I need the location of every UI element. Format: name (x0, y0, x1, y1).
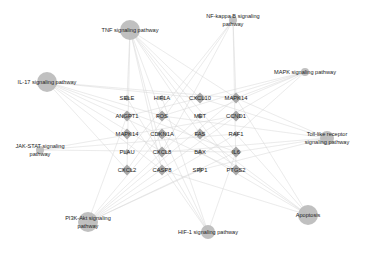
edge-mapk-fos (162, 72, 305, 116)
pathway-label-nfkb: pathway (223, 21, 244, 27)
edge-tnf-cxcl10 (130, 30, 200, 98)
gene-label-mapk14: MAPK14 (225, 95, 249, 101)
edges-layer (40, 20, 327, 232)
nodes-layer (36, 16, 334, 239)
edge-tnf-fos (130, 30, 162, 116)
labels-layer: TNF signaling pathwayNF-kappa B signalin… (15, 13, 349, 235)
pathway-label-apoptosis: Apoptosis (296, 212, 321, 218)
gene-label-ccnd1: CCND1 (226, 113, 246, 119)
edge-hif1-il6 (208, 152, 236, 232)
edge-pi3k-cdkn1a (88, 134, 162, 222)
pathway-label-jakstat: pathway (30, 151, 51, 157)
gene-label-cdkn1a: CDKN1A (150, 131, 174, 137)
edge-apoptosis-bax (200, 152, 308, 215)
gene-label-mapk14: MAPK14 (116, 131, 140, 137)
gene-label-casp8: CASP8 (152, 167, 171, 173)
gene-label-il6: IL6 (232, 149, 240, 155)
edge-apoptosis-fas (200, 134, 308, 215)
edge-tnf-mapk14 (130, 30, 236, 98)
gene-label-sele: SELE (120, 95, 135, 101)
pathway-label-mapk: MAPK signaling pathway (274, 69, 336, 75)
edge-il17-cxcl2 (47, 82, 127, 170)
pathway-label-il17: IL-17 signaling pathway (18, 79, 77, 85)
gene-label-raf1: RAF1 (229, 131, 244, 137)
gene-label-angpt1: ANGPT1 (115, 113, 138, 119)
gene-label-met: MET (194, 113, 207, 119)
pathway-label-tnf: TNF signaling pathway (102, 27, 159, 33)
gene-label-cxcl8: CXCL8 (153, 149, 172, 155)
gene-label-fas: FAS (195, 131, 206, 137)
pathway-label-nfkb: NF-kappa B signaling (206, 13, 259, 19)
pathway-gene-network: TNF signaling pathwayNF-kappa B signalin… (0, 0, 365, 254)
gene-label-ptgs2: PTGS2 (226, 167, 245, 173)
gene-label-hif1a: HIF1A (154, 95, 171, 101)
pathway-label-pi3k: pathway (78, 223, 99, 229)
pathway-label-jakstat: JAK-STAT signaling (15, 143, 64, 149)
gene-label-cxcl10: CXCL10 (189, 95, 211, 101)
pathway-label-toll: signaling pathway (305, 139, 350, 145)
gene-label-cxcl2: CXCL2 (118, 167, 137, 173)
edge-toll-cxcl8 (162, 138, 327, 152)
edge-apoptosis-raf1 (236, 134, 308, 215)
gene-label-plau: PLAU (119, 149, 134, 155)
gene-label-spp1: SPP1 (193, 167, 208, 173)
pathway-label-hif1: HIF-1 signaling pathway (178, 229, 238, 235)
edge-apoptosis-mapk14 (236, 98, 308, 215)
pathway-label-toll: Toll-like receptor (307, 131, 348, 137)
gene-label-fos: FOS (156, 113, 168, 119)
gene-label-bax: BAX (194, 149, 206, 155)
pathway-label-pi3k: PI3K-Akt signaling (65, 215, 111, 221)
edge-mapk-raf1 (236, 72, 305, 134)
